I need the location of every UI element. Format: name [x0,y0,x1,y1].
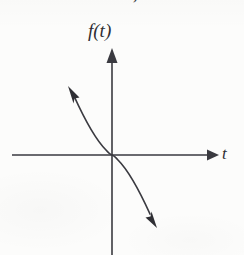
math-figure: For real numbers, the fu f(t) t [0,0,244,255]
horizontal-axis-label: t [222,144,227,164]
t-axis [12,150,219,161]
curve-lower-right-arrowhead-icon [146,212,158,229]
t-axis-arrowhead-icon [207,150,219,161]
curve-upper-left-arrowhead-icon [68,86,80,104]
f-axis-arrowhead-icon [107,48,118,63]
graph-canvas [0,0,244,255]
vertical-axis-label: f(t) [88,20,111,42]
